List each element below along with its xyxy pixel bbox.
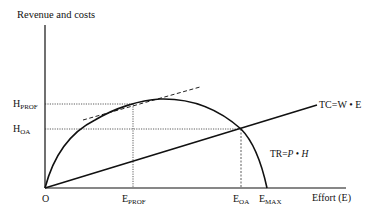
tangent-line [83,87,200,120]
h-prof-label: HPROF [13,99,38,111]
e-prof-label: EPROF [122,194,146,206]
total-cost-label: TC=W • E [319,100,361,110]
e-max-label: EMAX [259,194,281,206]
origin-label: O [42,194,49,204]
total-revenue-curve [45,99,267,188]
chart-canvas [0,0,375,220]
e-oa-label: EOA [233,194,249,206]
total-revenue-label: TR=P • H [270,150,308,160]
h-oa-label: HOA [13,124,30,136]
total-cost-line [45,105,317,188]
y-axis-label: Revenue and costs [17,10,95,21]
x-axis-label: Effort (E) [312,193,351,203]
